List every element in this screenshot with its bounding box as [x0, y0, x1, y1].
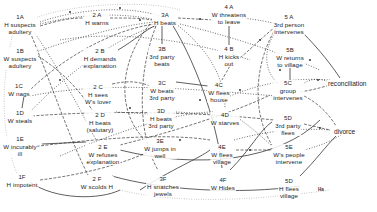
node-label: intervenes [274, 28, 305, 35]
node-4F: 4F W Hides [210, 177, 236, 191]
node-label: W returns [276, 54, 304, 61]
edge-1A-2A [40, 18, 84, 26]
node-code: 2 E [87, 144, 120, 151]
node-2F: 2 F W scolds H [80, 176, 114, 190]
node-code: 1E [3, 136, 36, 143]
node-3C: 3C W beats 3rd party [148, 80, 175, 101]
node-label: H impotent [7, 181, 38, 188]
node-code: 3F [147, 176, 179, 183]
node-label: W flees [211, 151, 232, 158]
node-label: W Hides [211, 184, 235, 191]
node-4D: 4D W starves [210, 112, 240, 126]
node-1B: 1B W suspects adultery [3, 48, 38, 69]
node-label: village [279, 192, 299, 199]
node-label: W nags [8, 90, 30, 97]
node-label: house [208, 96, 229, 103]
edge-2D-4D [60, 112, 214, 156]
node-code: 1B [4, 48, 37, 55]
edge-5C-divorce [304, 96, 336, 126]
node-5E: 5E W's people intervene [272, 144, 305, 165]
node-label: H suspects [4, 21, 36, 28]
node-label: adultery [4, 62, 37, 69]
node-label: H beats [148, 115, 173, 122]
node-code: 1F [7, 174, 38, 181]
node-label: W jumps in [144, 145, 176, 152]
edge-5E-divorce [304, 134, 342, 150]
node-label: W threatens [212, 11, 246, 18]
node-1C: 1C W nags [7, 83, 31, 97]
node-code: 4F [211, 177, 235, 184]
node-label: explanation [87, 158, 120, 165]
node-label: jewels [147, 190, 179, 197]
node-label: W flees [208, 89, 229, 96]
edge-2C-3C [112, 82, 150, 86]
node-label: 3rd party [275, 122, 300, 129]
node-label: H snatches [147, 183, 179, 190]
edge-1C-1D [22, 96, 24, 108]
node-code: 2 A [85, 12, 108, 19]
node-code: 1D [8, 110, 33, 117]
node-code: 2 F [81, 176, 113, 183]
edge-2F-5F [112, 176, 300, 191]
edge-1A-2F [30, 32, 88, 175]
node-1E: 1E W incurably ill [2, 136, 37, 157]
edge-3A-4A [178, 18, 214, 20]
node-label: 3rd party [149, 94, 174, 101]
node-label: H kicks [219, 53, 240, 60]
node-code: 4 B [219, 46, 240, 53]
node-5F: 5D H flees village [278, 178, 300, 199]
node-code: 4 A [212, 4, 246, 11]
node-code: 3B [149, 46, 174, 53]
node-4E: 4E W flees village [210, 144, 233, 165]
edge-3C-4C [176, 82, 208, 86]
node-1D: 1D W steals [7, 110, 34, 124]
node-label: W's lover [85, 98, 111, 105]
node-label: W incurably [3, 143, 36, 150]
node-code: 5 A [274, 14, 305, 21]
node-code: 2 B [84, 48, 117, 55]
edge-5C-reconciliation-b [300, 85, 330, 92]
node-label: H warns [85, 19, 108, 26]
node-label: 3rd party [149, 53, 174, 60]
artist-signature: Ha [318, 187, 324, 192]
flow-diagram-canvas [0, 0, 377, 212]
edge-5C-reconciliation-a [300, 79, 330, 86]
node-5D: 5D 3rd party flees [274, 115, 301, 136]
node-label: H flees [279, 185, 299, 192]
node-label: group [273, 87, 303, 94]
node-3B: 3B 3rd party beats [148, 46, 175, 67]
node-3E: 3E W jumps in well [143, 138, 177, 159]
node-label: 3rd party [148, 122, 173, 129]
node-code: 5C [273, 80, 303, 87]
node-2C: 2 C H sees W's lover [84, 84, 112, 105]
node-label: intervene [273, 158, 304, 165]
node-3D: 3D H beats 3rd party [147, 108, 174, 129]
node-code: 5D [275, 115, 300, 122]
outcome-divorce: divorce [333, 128, 356, 135]
node-code: 4D [211, 112, 239, 119]
node-label: H demands [84, 55, 117, 62]
node-label: explanation [84, 62, 117, 69]
outcome-reconciliation: reconciliation [327, 80, 367, 87]
node-code: 5D [279, 178, 299, 185]
node-code: 2 D [87, 112, 114, 119]
node-2B: 2 B H demands explanation [83, 48, 118, 69]
node-5C: 5C group intervenes [272, 80, 304, 101]
node-label: beats [149, 60, 174, 67]
node-5A: 5 A 3rd person intervenes [273, 14, 306, 35]
node-label: W steals [8, 117, 33, 124]
node-label: W suspects [4, 55, 37, 62]
node-code: 1A [4, 14, 36, 21]
node-code: 2 C [85, 84, 111, 91]
node-1A: 1A H suspects adultery [3, 14, 37, 35]
node-2D: 2 D H beats (salutary) [86, 112, 115, 133]
node-label: H beats [154, 19, 176, 26]
edge-4B-5A [240, 28, 274, 58]
node-label: out [219, 60, 240, 67]
node-2A: 2 A H warns [84, 12, 109, 26]
node-label: to village [276, 61, 304, 68]
edge-3A-3E [125, 24, 150, 140]
edge-4F-5D [230, 122, 272, 170]
node-label: H beats [87, 119, 114, 126]
node-label: village [211, 158, 232, 165]
